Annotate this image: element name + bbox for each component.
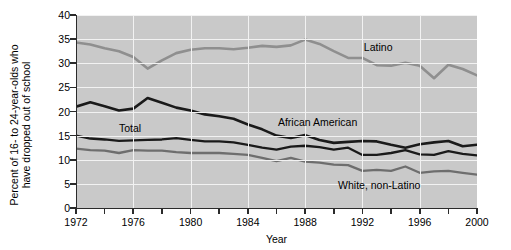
series-label-white-non-latino: White, non-Latino	[338, 179, 420, 191]
x-tick-label-1980: 1980	[161, 216, 221, 228]
series-label-latino: Latino	[364, 41, 393, 53]
y-tick-label-30: 30	[30, 58, 70, 68]
gridline-x-1984	[248, 15, 249, 208]
y-tick-15	[70, 135, 76, 137]
y-tick-label-40: 40	[30, 10, 70, 20]
x-tick-1986	[276, 208, 278, 214]
dropout-rate-line-chart: Percent of 16- to 24-year-olds who have …	[0, 0, 511, 250]
x-tick-label-1972: 1972	[46, 216, 106, 228]
x-tick-label-1984: 1984	[218, 216, 278, 228]
y-tick-label-0: 0	[30, 203, 70, 213]
x-axis-title: Year	[76, 233, 477, 245]
x-tick-label-1976: 1976	[103, 216, 163, 228]
y-tick-label-25: 25	[30, 82, 70, 92]
x-tick-1992	[362, 208, 364, 214]
line-latino	[76, 40, 477, 79]
y-tick-label-35: 35	[30, 34, 70, 44]
y-tick-35	[70, 38, 76, 40]
x-tick-label-1992: 1992	[332, 216, 392, 228]
y-axis-title-line1: Percent of 16- to 24-year-olds who	[8, 44, 21, 205]
y-tick-25	[70, 87, 76, 89]
x-tick-label-2000: 2000	[447, 216, 507, 228]
y-tick-20	[70, 111, 76, 113]
gridline-y-25	[76, 87, 477, 88]
y-tick-label-10: 10	[30, 155, 70, 165]
gridline-x-1980	[191, 15, 192, 208]
gridline-x-1988	[305, 15, 306, 208]
plot-area: LatinoAfrican AmericanTotalWhite, non-La…	[76, 15, 477, 208]
x-tick-1974	[104, 208, 106, 214]
x-tick-2000	[476, 208, 478, 214]
gridline-y-20	[76, 112, 477, 113]
y-tick-40	[70, 14, 76, 16]
x-tick-1984	[247, 208, 249, 214]
x-tick-label-1988: 1988	[275, 216, 335, 228]
y-tick-label-20: 20	[30, 107, 70, 117]
x-tick-1990	[333, 208, 335, 214]
x-tick-label-1996: 1996	[390, 216, 450, 228]
series-label-african-american: African American	[278, 116, 357, 128]
x-tick-1998	[448, 208, 450, 214]
y-tick-5	[70, 183, 76, 185]
x-tick-1996	[419, 208, 421, 214]
y-tick-label-5: 5	[30, 179, 70, 189]
gridline-x-1976	[133, 15, 134, 208]
gridline-y-15	[76, 136, 477, 137]
x-tick-1988	[304, 208, 306, 214]
y-tick-30	[70, 62, 76, 64]
gridline-y-30	[76, 63, 477, 64]
x-tick-1978	[161, 208, 163, 214]
x-tick-1994	[390, 208, 392, 214]
y-tick-label-15: 15	[30, 131, 70, 141]
gridline-y-35	[76, 39, 477, 40]
x-tick-1976	[132, 208, 134, 214]
gridline-y-10	[76, 160, 477, 161]
x-tick-1980	[190, 208, 192, 214]
x-tick-1982	[218, 208, 220, 214]
x-tick-1972	[75, 208, 77, 214]
y-tick-10	[70, 159, 76, 161]
gridline-y-40	[76, 15, 477, 16]
series-label-total: Total	[119, 122, 141, 134]
